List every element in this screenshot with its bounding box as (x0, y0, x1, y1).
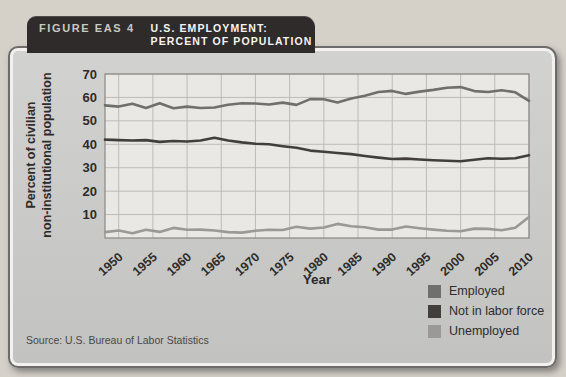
figure-title-line1: U.S. EMPLOYMENT: (151, 22, 268, 34)
chart-legend: Employed Not in labor force Unemployed (428, 284, 544, 344)
figure-number-label: FIGURE EAS 4 (39, 22, 135, 35)
legend-label: Not in labor force (449, 304, 544, 318)
chart-plot: 1020304050607019501955196019651970197519… (72, 60, 547, 300)
y-axis-title-line2: non-institutional population (40, 72, 54, 237)
x-axis-title: Year (167, 272, 467, 287)
legend-label: Unemployed (449, 324, 519, 338)
y-tick-label: 60 (83, 90, 97, 105)
legend-label: Employed (449, 284, 505, 298)
x-tick-label: 1955 (130, 250, 160, 279)
unemployed-swatch-icon (428, 325, 441, 338)
figure-card: FIGURE EAS 4 U.S. EMPLOYMENT: PERCENT OF… (8, 46, 557, 368)
y-axis-title-line1: Percent of civilian (24, 102, 38, 209)
y-tick-label: 40 (83, 137, 97, 152)
source-credit: Source: U.S. Bureau of Labor Statistics (26, 334, 209, 346)
y-tick-label: 20 (83, 184, 97, 199)
not-in-labor-force-swatch-icon (428, 305, 441, 318)
figure-title-line2: PERCENT OF POPULATION (151, 35, 313, 47)
employed-swatch-icon (428, 285, 441, 298)
figure-title: U.S. EMPLOYMENT: PERCENT OF POPULATION (151, 22, 313, 48)
legend-item-not-in-labor-force: Not in labor force (428, 304, 544, 318)
y-axis-title: Percent of civilian non-institutional po… (23, 55, 57, 255)
y-tick-label: 30 (83, 160, 97, 175)
figure-header: FIGURE EAS 4 U.S. EMPLOYMENT: PERCENT OF… (27, 16, 315, 53)
y-tick-label: 10 (83, 207, 97, 222)
legend-item-employed: Employed (428, 284, 544, 298)
x-tick-label: 2005 (472, 250, 502, 279)
y-tick-label: 50 (83, 113, 97, 128)
x-tick-label: 2010 (506, 250, 536, 279)
x-tick-label: 1950 (96, 250, 126, 279)
legend-item-unemployed: Unemployed (428, 324, 544, 338)
y-tick-label: 70 (83, 67, 97, 82)
